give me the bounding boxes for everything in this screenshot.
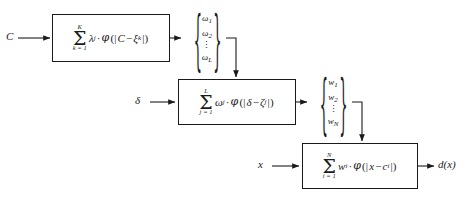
stage-1-arg-minus: − xyxy=(125,32,133,44)
stage-2-output-vector: { w1 w2 ⋮ wN } xyxy=(312,68,354,138)
vector-item: ω2 xyxy=(202,27,212,42)
brace-left-icon: { xyxy=(194,6,201,72)
stage-3-box[interactable]: N Σ i = 1 wi · φ (| x − ci |) xyxy=(302,143,418,189)
stage-1-box[interactable]: K Σ k = 1 λj · φ (| C − ξk |) xyxy=(52,14,170,62)
stage-2-summation: L Σ j = 1 xyxy=(199,88,213,115)
stage-2-vector-items: w1 w2 ⋮ wN xyxy=(327,76,340,130)
stage-2-formula: L Σ j = 1 ωj · φ (| δ − ζj |) xyxy=(199,88,274,115)
stage-2-arg-open: (| xyxy=(238,96,246,108)
vector-ellipsis: ⋮ xyxy=(329,105,338,115)
stage-3-arg-close: |) xyxy=(389,160,397,172)
stage-3-basis-function: φ xyxy=(353,159,361,172)
stage-2-sigma-lower: j = 1 xyxy=(200,109,213,116)
stage-3-arg-minus: − xyxy=(374,160,382,172)
stage-1-arg-close: |) xyxy=(141,32,149,44)
stage-3-summation: N Σ i = 1 xyxy=(322,152,336,179)
vector-item: ω1 xyxy=(202,12,212,27)
vector-item: wN xyxy=(328,115,339,130)
vector-item: ωL xyxy=(202,51,212,66)
input-label-delta: δ xyxy=(135,94,140,106)
stage-1-summation: K Σ k = 1 xyxy=(73,24,87,51)
stage-1-arg-open: (| xyxy=(109,32,117,44)
stage-1-sigma-lower: k = 1 xyxy=(73,45,87,52)
vector-ellipsis: ⋮ xyxy=(202,41,211,51)
brace-right-icon: } xyxy=(339,70,346,136)
vector-item: w1 xyxy=(328,76,338,91)
input-label-c: C xyxy=(6,30,13,42)
stage-3-arg-open: (| xyxy=(361,160,369,172)
stage-1-vector-items: ω1 ω2 ⋮ ωL xyxy=(201,12,213,66)
stage-2-box[interactable]: L Σ j = 1 ωj · φ (| δ − ζj |) xyxy=(178,79,296,125)
stage-3-formula: N Σ i = 1 wi · φ (| x − ci |) xyxy=(322,152,397,179)
vector-item: w2 xyxy=(328,91,338,106)
stage-2-arg-close: |) xyxy=(267,96,275,108)
output-label-dx: d(x) xyxy=(438,158,456,170)
brace-left-icon: { xyxy=(320,70,327,136)
brace-right-icon: } xyxy=(213,6,220,72)
stage-3-coefficient: w xyxy=(338,160,345,172)
stage-2-coefficient: ω xyxy=(215,96,223,108)
stage-1-output-vector: { ω1 ω2 ⋮ ωL } xyxy=(186,4,228,74)
stage-1-basis-function: φ xyxy=(102,31,110,44)
stage-1-formula: K Σ k = 1 λj · φ (| C − ξk |) xyxy=(73,24,150,51)
stage-2-basis-function: φ xyxy=(231,95,239,108)
stage-3-sigma-lower: i = 1 xyxy=(323,173,336,180)
stage-1-arg-left: C xyxy=(118,32,125,44)
input-label-x: x xyxy=(258,158,263,170)
diagram-canvas: C K Σ k = 1 λj · φ (| C − ξk |) { ω1 ω2 … xyxy=(0,0,466,198)
stage-2-arg-minus: − xyxy=(252,96,260,108)
